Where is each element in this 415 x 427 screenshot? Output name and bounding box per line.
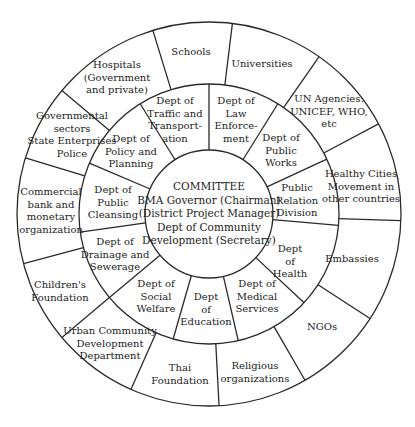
committee-center-label: COMMITTEE BMA Governor (Chairman) (Distr… [137,180,280,248]
ring-divider-line [153,30,171,89]
partner-commercial-bank: Commercial bank and monetary organizatio… [19,186,83,236]
partner-hospitals: Hospitals (Government and private) [84,59,151,97]
dept-social-welfare: Dept of Social Welfare [137,278,176,316]
partner-un-agencies: UN Agencies: UNICEF, WHO, etc [290,93,368,131]
public-relation-division: Public Relation Division [276,182,318,220]
dept-health: Dept of Health [273,243,307,281]
partner-embassies: Embassies [325,253,379,266]
partner-ngos: NGOs [307,321,337,334]
ring-divider-line [318,285,370,319]
partner-urban-community-dev: Urban Community Development Department [63,325,157,363]
ring-divider-line [80,223,145,232]
ring-divider-line [24,248,84,264]
dept-medical-services: Dept of Medical Services [235,278,278,316]
partner-universities: Universities [231,58,292,71]
partner-schools: Schools [171,46,210,59]
ring-divider-line [216,344,219,406]
partner-thai-foundation: Thai Foundation [151,362,208,387]
dept-public-works: Dept of Public Works [262,132,299,170]
ring-divider-line [25,158,84,176]
partner-governmental-sectors: Governmental sectors State Enterprises P… [28,110,117,160]
partner-healthy-cities: Healthy Cities Movement in other countri… [322,168,400,206]
ring-divider-line [273,220,339,226]
dept-public-cleansing: Dept of Public Cleansing [88,184,138,222]
partner-childrens-foundation: Children's Foundation [31,279,88,304]
ring-divider-line [339,219,401,221]
dept-drainage-sewerage: Dept of Drainage and Sewerage [81,236,150,274]
ring-divider-line [225,23,233,85]
partner-religious-organizations: Religious organizations [221,360,290,385]
dept-education: Dept of Education [180,291,231,329]
dept-law-enforcement: Dept of Law Enforce- ment [214,95,257,145]
